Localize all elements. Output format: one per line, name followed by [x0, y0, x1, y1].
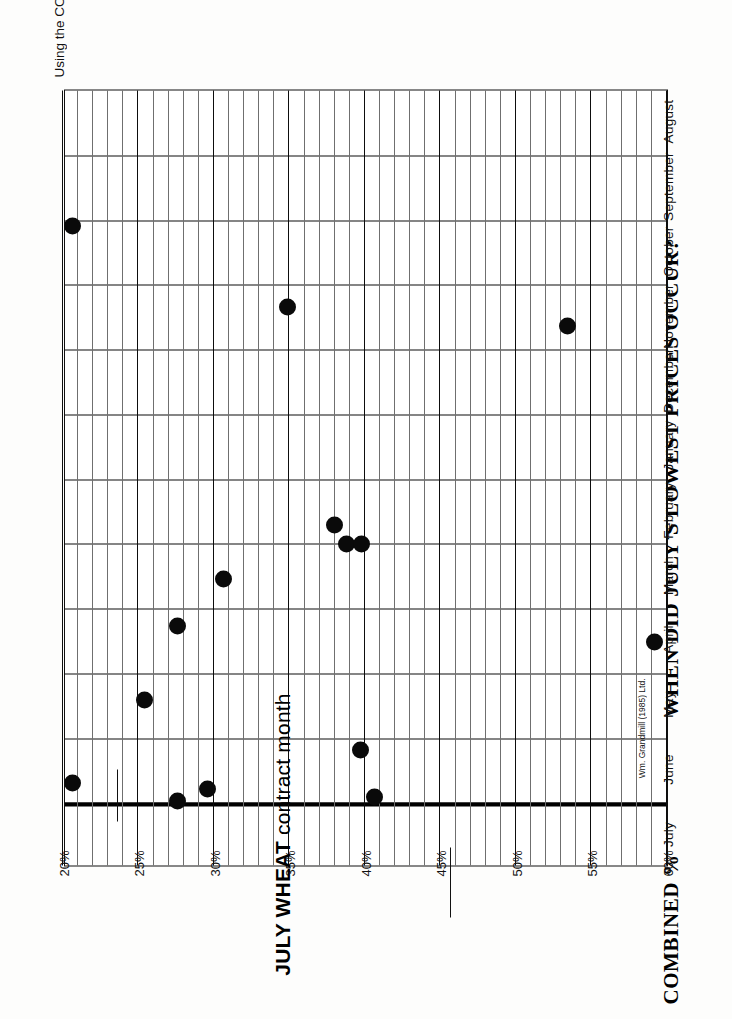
data-point [215, 570, 232, 587]
percent-tick-label-50: 50% [510, 850, 525, 876]
percent-gridline-minor [198, 90, 199, 865]
data-point [64, 774, 81, 791]
month-tick-label-november: November [661, 283, 676, 348]
percent-gridline-major [440, 90, 441, 865]
data-point [353, 535, 370, 552]
data-point [352, 741, 369, 758]
month-gridline [65, 479, 667, 480]
percent-gridline-major [138, 90, 139, 865]
month-tick-label-january: January [661, 420, 676, 470]
percent-tick-label-40: 40% [359, 850, 374, 876]
publisher-credit: Wm. Grandmill (1985) Ltd. [637, 678, 647, 778]
percent-gridline-major [591, 90, 592, 865]
month-gridline [65, 284, 667, 285]
percent-gridline-major [213, 90, 214, 865]
contract-month-note: JULY WHEAT contract month [271, 692, 295, 974]
month-tick-label-march: March [661, 555, 676, 594]
percent-gridline-minor [319, 90, 320, 865]
month-tick-label-august: August [661, 99, 676, 143]
contract-note-bold: JULY WHEAT [271, 840, 294, 975]
percent-gridline-minor [107, 90, 108, 865]
percent-tick-label-25: 25% [132, 850, 147, 876]
percent-gridline-minor [470, 90, 471, 865]
percent-gridline-minor [243, 90, 244, 865]
data-point [559, 317, 576, 334]
data-point [199, 780, 216, 797]
percent-gridline-minor [258, 90, 259, 865]
data-point [136, 691, 153, 708]
percent-gridline-minor [575, 90, 576, 865]
percent-gridline-minor [394, 90, 395, 865]
percent-gridline-minor [334, 90, 335, 865]
y-axis-title: COMBINED % [659, 854, 684, 1004]
data-point [326, 516, 343, 533]
rotated-chart-stage: COMBINED % WHEN DID JULY'S LOWEST PRICES… [0, 0, 732, 1019]
percent-gridline-minor [153, 90, 154, 865]
percent-gridline-minor [500, 90, 501, 865]
percent-gridline-minor [530, 90, 531, 865]
month-tick-label-may: May [661, 691, 676, 717]
chart-subtitle: Using the COMBINATION CARRYOVER (60% Wor… [52, 0, 67, 77]
month-gridline [65, 608, 667, 609]
percent-gridline-minor [228, 90, 229, 865]
july-separator-line [65, 802, 667, 806]
month-gridline [65, 155, 667, 156]
month-gridline [65, 738, 667, 739]
percent-gridline-minor [349, 90, 350, 865]
percent-tick-label-20: 20% [57, 850, 72, 876]
percent-gridline-minor [122, 90, 123, 865]
month-tick-label-april: April [661, 625, 676, 654]
percent-tick-label-60: 60% [661, 850, 676, 876]
month-gridline [65, 673, 667, 674]
month-gridline [65, 220, 667, 221]
percent-gridline-minor [485, 90, 486, 865]
chart-page: COMBINED % WHEN DID JULY'S LOWEST PRICES… [0, 0, 732, 1019]
month-gridline [65, 349, 667, 350]
month-tick-label-june: June [661, 754, 676, 784]
month-gridline [65, 414, 667, 415]
percent-tick-label-55: 55% [585, 850, 600, 876]
percent-gridline-minor [77, 90, 78, 865]
percent-gridline-minor [168, 90, 169, 865]
month-tick-label-october: October [661, 226, 676, 276]
month-tick-label-july: July [661, 821, 676, 846]
percent-gridline-minor [560, 90, 561, 865]
percent-tick-label-30: 30% [208, 850, 223, 876]
percent-gridline-minor [651, 90, 652, 865]
percent-gridline-minor [304, 90, 305, 865]
data-point [366, 788, 383, 805]
percent-gridline-minor [92, 90, 93, 865]
data-point [280, 298, 297, 315]
plot-area [64, 89, 668, 866]
percent-tick-label-45: 45% [434, 850, 449, 876]
contract-note-rest: contract month [271, 692, 294, 840]
percent-gridline-major [62, 90, 63, 865]
contract-note-rule-right [450, 847, 451, 917]
percent-gridline-minor [183, 90, 184, 865]
data-point [64, 217, 81, 234]
percent-gridline-minor [606, 90, 607, 865]
percent-gridline-minor [621, 90, 622, 865]
month-tick-label-december: December [661, 348, 676, 413]
percent-gridline-minor [379, 90, 380, 865]
percent-gridline-minor [424, 90, 425, 865]
percent-gridline-minor [409, 90, 410, 865]
percent-gridline-minor [545, 90, 546, 865]
month-tick-label-february: February [661, 482, 676, 538]
data-point [169, 617, 186, 634]
month-tick-label-september: September [661, 152, 676, 221]
percent-gridline-minor [455, 90, 456, 865]
percent-gridline-major [515, 90, 516, 865]
